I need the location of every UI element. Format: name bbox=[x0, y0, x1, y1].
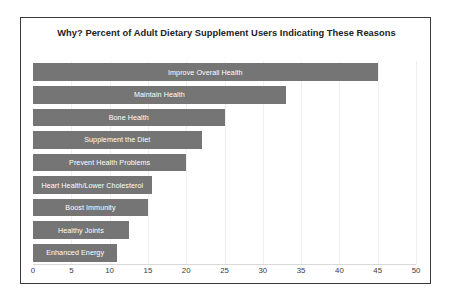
x-tick-label: 40 bbox=[335, 266, 344, 275]
bar-row: Healthy Joints bbox=[33, 221, 416, 239]
x-axis-tick-labels: 05101520253035404550 bbox=[33, 266, 416, 282]
bar-row: Prevent Health Problems bbox=[33, 154, 416, 172]
x-tick-label: 30 bbox=[258, 266, 267, 275]
x-tick-label: 25 bbox=[220, 266, 229, 275]
bar-label: Boost Immunity bbox=[33, 199, 148, 217]
chart-title: Why? Percent of Adult Dietary Supplement… bbox=[43, 27, 410, 40]
bar-row: Improve Overall Health bbox=[33, 63, 416, 81]
bar-row: Supplement the Diet bbox=[33, 131, 416, 149]
bar-row: Bone Health bbox=[33, 109, 416, 127]
bar-label: Maintain Health bbox=[33, 86, 286, 104]
x-tick-label: 35 bbox=[297, 266, 306, 275]
bar-row: Enhanced Energy bbox=[33, 244, 416, 262]
x-tick-label: 45 bbox=[373, 266, 382, 275]
plot-area: Improve Overall HealthMaintain HealthBon… bbox=[33, 61, 416, 264]
gridline bbox=[416, 61, 417, 264]
bar-row: Heart Health/Lower Cholesterol bbox=[33, 176, 416, 194]
chart-frame: Why? Percent of Adult Dietary Supplement… bbox=[20, 17, 431, 284]
bar-label: Prevent Health Problems bbox=[33, 154, 186, 172]
x-axis-line bbox=[33, 264, 416, 265]
x-tick-label: 20 bbox=[182, 266, 191, 275]
bar-label: Improve Overall Health bbox=[33, 63, 378, 81]
x-tick-label: 0 bbox=[31, 266, 35, 275]
x-tick-label: 5 bbox=[69, 266, 73, 275]
bar-label: Bone Health bbox=[33, 109, 225, 127]
bar-label: Heart Health/Lower Cholesterol bbox=[33, 176, 152, 194]
bar-row: Boost Immunity bbox=[33, 199, 416, 217]
x-tick-label: 10 bbox=[105, 266, 114, 275]
bar-row: Maintain Health bbox=[33, 86, 416, 104]
x-tick-label: 50 bbox=[412, 266, 421, 275]
bar-label: Supplement the Diet bbox=[33, 131, 202, 149]
bar-label: Enhanced Energy bbox=[33, 244, 117, 262]
bar-label: Healthy Joints bbox=[33, 221, 129, 239]
x-tick-label: 15 bbox=[144, 266, 153, 275]
